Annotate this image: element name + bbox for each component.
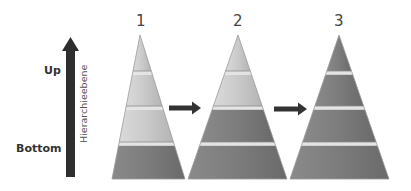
diagram-graphics [0, 0, 411, 191]
pyramid-level [315, 75, 364, 107]
level-separator [132, 71, 152, 75]
level-separator [212, 106, 263, 110]
pyramid-3 [290, 35, 389, 179]
pyramid-level [188, 146, 287, 180]
level-separator [326, 71, 353, 75]
pyramid-level [226, 35, 251, 71]
level-separator [314, 106, 365, 110]
pyramid-2 [188, 35, 287, 179]
level-separator [301, 142, 377, 146]
hierarchy-up-arrow-icon [62, 37, 79, 177]
pyramid-level [119, 110, 173, 143]
level-separator [224, 71, 251, 75]
pyramid-level [112, 146, 185, 180]
pyramid-3-label: 3 [334, 12, 344, 30]
pyramid-level [327, 35, 352, 71]
pyramid-level [290, 146, 389, 180]
level-separator [119, 142, 175, 146]
pyramid-level [303, 110, 377, 143]
pyramid-level [213, 75, 262, 107]
pyramid-level [133, 35, 151, 71]
transition-arrow-2-icon [274, 103, 307, 116]
transition-arrow-1-icon [169, 102, 201, 115]
pyramid-2-label: 2 [233, 12, 243, 30]
level-separator [200, 142, 276, 146]
level-separator [126, 106, 164, 110]
pyramid-1-label: 1 [136, 12, 146, 30]
hierarchy-level-label: Hierarchieebene [78, 65, 89, 143]
pyramid-level [201, 110, 275, 143]
